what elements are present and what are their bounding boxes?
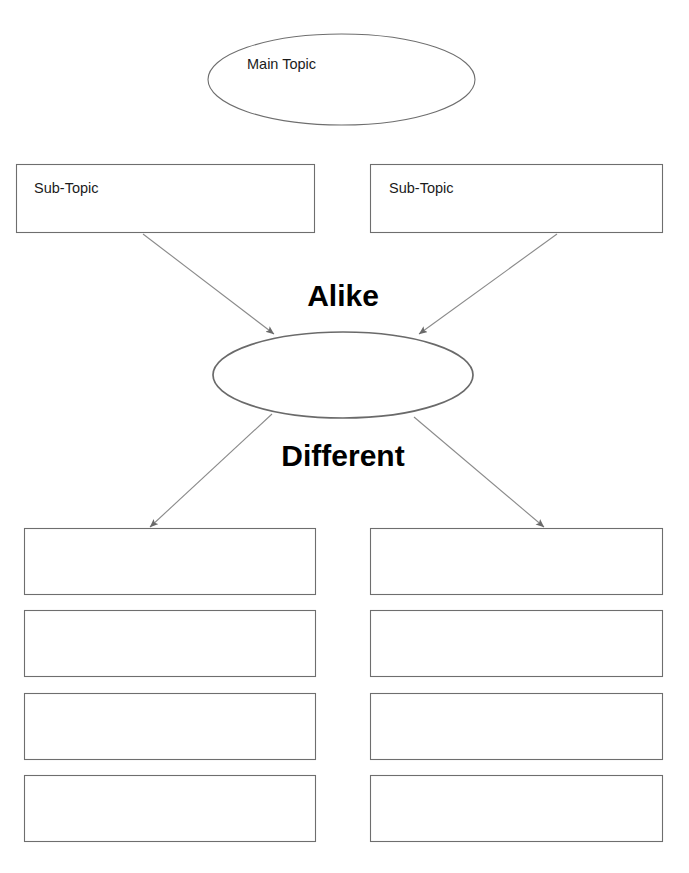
detail-box-right-1[interactable] (371, 529, 663, 595)
worksheet-canvas: Main Topic Sub-Topic Sub-Topic Alike Dif… (0, 0, 689, 873)
sub-topic-right-box[interactable] (371, 165, 663, 233)
detail-box-left-1[interactable] (25, 529, 316, 595)
detail-box-right-2[interactable] (371, 611, 663, 677)
sub-topic-right-label: Sub-Topic (389, 180, 453, 197)
different-heading: Different (243, 441, 443, 471)
sub-topic-left-box[interactable] (17, 165, 315, 233)
main-topic-label: Main Topic (247, 56, 316, 73)
detail-box-right-4[interactable] (371, 776, 663, 842)
main-topic-ellipse[interactable] (208, 34, 475, 125)
sub-topic-left-label: Sub-Topic (34, 180, 98, 197)
detail-box-left-2[interactable] (25, 611, 316, 677)
detail-box-left-4[interactable] (25, 776, 316, 842)
graphic-organizer-diagram (0, 0, 689, 873)
detail-box-left-3[interactable] (25, 694, 316, 760)
center-alike-ellipse[interactable] (213, 332, 473, 418)
alike-heading: Alike (243, 281, 443, 311)
arrow-center-to-detail-right (414, 417, 544, 527)
detail-box-right-3[interactable] (371, 694, 663, 760)
